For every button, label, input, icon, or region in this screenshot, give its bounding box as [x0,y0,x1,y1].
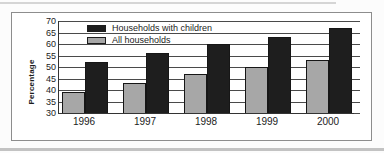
right-tick [354,33,360,34]
y-tick-label: 40 [46,86,56,95]
bar [146,53,169,113]
y-tick-label: 35 [46,97,56,106]
bar-group [62,62,108,113]
y-tick-label: 55 [46,51,56,60]
scan-artifact-bottom [0,148,384,151]
y-tick-label: 50 [46,63,56,72]
y-tick-label: 70 [46,17,56,26]
y-tick-label: 60 [46,40,56,49]
legend-item: Households with children [87,24,212,33]
bar-group [184,44,230,113]
bar-group [306,28,352,113]
y-tick-label: 30 [46,109,56,118]
x-tick-label: 2000 [305,116,351,127]
bar-group [123,53,169,113]
x-tick-label: 1996 [61,116,107,127]
y-tick-label: 45 [46,74,56,83]
right-tick [354,44,360,45]
right-tick [354,113,360,114]
bar [184,74,207,113]
bar [123,83,146,113]
right-tick [354,67,360,68]
x-tick-label: 1997 [122,116,168,127]
legend: Households with childrenAll households [87,24,212,48]
bar [268,37,291,113]
y-axis-tick-labels: 303540455055606570 [30,21,56,113]
legend-item: All households [87,36,212,45]
chart-frame: Percentage 303540455055606570 Households… [11,12,372,141]
legend-label: Households with children [112,24,212,33]
right-tick [354,102,360,103]
bar [306,60,329,113]
bar-group [245,37,291,113]
plot-area: Households with childrenAll households [58,21,354,114]
legend-label: All households [112,36,171,45]
legend-swatch [87,37,106,44]
y-tick-label: 65 [46,28,56,37]
scan-artifact-top [0,2,336,4]
right-tick [354,21,360,22]
bar [62,92,85,113]
right-tick [354,56,360,57]
x-axis-tick-labels: 19961997199819992000 [58,116,353,127]
bar [85,62,108,113]
x-tick-label: 1998 [183,116,229,127]
bar [245,67,268,113]
x-tick-label: 1999 [244,116,290,127]
right-tick [354,90,360,91]
right-tick [354,79,360,80]
bar [329,28,352,113]
legend-swatch [87,25,106,32]
bar [207,44,230,113]
